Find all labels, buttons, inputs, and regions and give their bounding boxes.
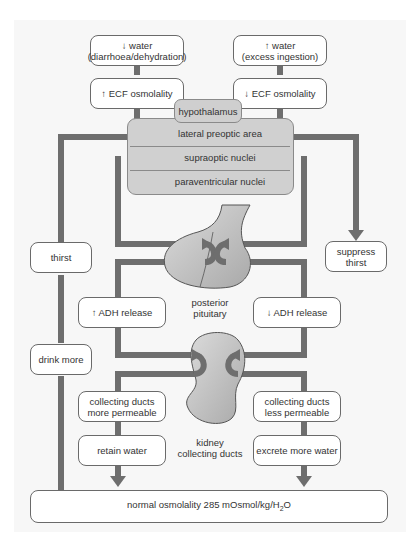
nucleus-divider [130, 170, 290, 171]
decrease-adh-release-box: ↓ ADH release [253, 297, 341, 328]
drink-more-box: drink more [30, 344, 92, 375]
increase-water-box: ↑ water (excess ingestion) [233, 35, 327, 66]
kidney-shape [187, 333, 245, 424]
supraoptic-nuclei-label: supraoptic nuclei [160, 152, 280, 163]
collecting-ducts-less-permeable-box: collecting ducts less permeable [253, 391, 341, 422]
nucleus-divider [130, 146, 290, 147]
thirst-box: thirst [30, 242, 92, 273]
posterior-pituitary-label: posterior pituitary [175, 297, 245, 319]
hypothalamus-label: hypothalamus [174, 99, 242, 123]
retain-water-box: retain water [78, 435, 166, 466]
decrease-ecf-osmolality-box: ↓ ECF osmolality [233, 78, 327, 109]
increase-adh-release-box: ↑ ADH release [78, 297, 166, 328]
excrete-more-water-box: excrete more water [253, 435, 341, 466]
collecting-ducts-more-permeable-box: collecting ducts more permeable [78, 391, 166, 422]
outcome-text: normal osmolality 285 mOsmol/kg/H2O [127, 499, 291, 514]
lateral-preoptic-area-label: lateral preoptic area [160, 128, 280, 139]
suppress-thirst-box: suppress thirst [325, 241, 387, 272]
increase-ecf-osmolality-box: ↑ ECF osmolality [90, 78, 184, 109]
paraventricular-nuclei-label: paraventricular nuclei [160, 176, 280, 187]
kidney-collecting-ducts-label: kidney collecting ducts [170, 437, 250, 459]
normal-osmolality-box: normal osmolality 285 mOsmol/kg/H2O [30, 490, 388, 523]
connector-arrows [0, 0, 418, 555]
decrease-water-box: ↓ water (diarrhoea/dehydration) [90, 35, 184, 66]
